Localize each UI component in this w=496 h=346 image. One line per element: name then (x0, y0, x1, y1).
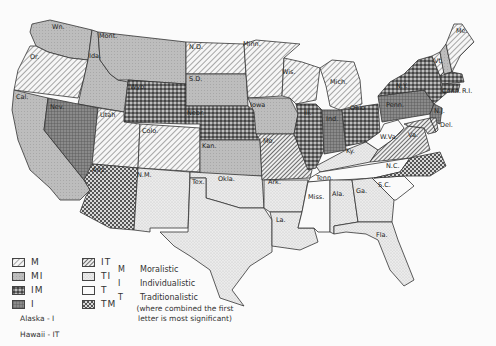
label-vt: Vt. (434, 57, 443, 65)
label-ks: Kan. (202, 142, 216, 150)
label-ms: Miss. (308, 193, 324, 201)
swatch-i (12, 300, 25, 309)
swatch-im (12, 286, 25, 295)
label-nm: N.M. (137, 171, 152, 179)
key-meaning: Individualistic (140, 279, 195, 288)
key-meaning: Traditionalistic (140, 293, 198, 302)
label-ky: Ky. (346, 147, 355, 155)
label-va: Va. (408, 131, 418, 139)
legend-code: T (101, 285, 108, 295)
swatch-m (12, 258, 25, 267)
alaska-note: Alaska - I (20, 314, 54, 323)
label-co: Colo. (142, 127, 158, 135)
legend-code: IM (31, 285, 43, 295)
label-or: Or. (30, 53, 39, 61)
label-nv: Nev. (50, 103, 64, 111)
label-nd: N.D. (189, 43, 203, 51)
legend-code: TI (101, 271, 111, 281)
hawaii-note: Hawaii - IT (20, 330, 59, 339)
label-me: Me. (456, 27, 468, 35)
legend-code: I (31, 299, 35, 309)
label-tn: Tenn. (315, 174, 333, 182)
label-wy: Wyo. (130, 83, 146, 91)
label-id: Ida. (89, 52, 101, 60)
legend-item-mi: MI (12, 270, 82, 282)
label-ga: Ga. (356, 187, 367, 195)
key-letter: T (118, 293, 140, 302)
swatch-t (82, 286, 95, 295)
state-wi (282, 58, 320, 104)
key-row-m: M Moralistic (118, 262, 318, 276)
legend-note-line2: letter is most significant) (110, 314, 260, 324)
swatch-mi (12, 272, 25, 281)
label-il: Ill. (304, 109, 312, 117)
label-ut: Utah (100, 111, 115, 119)
label-mn: Minn. (243, 40, 261, 48)
label-ar: Ark. (268, 178, 281, 186)
legend-item-i: I (12, 298, 82, 310)
state-az (80, 164, 138, 230)
label-nc: N.C. (386, 162, 400, 170)
label-wi: Wis. (282, 68, 296, 76)
label-az: Ariz. (92, 166, 106, 174)
label-mt: Mont. (99, 32, 117, 40)
label-la: La. (276, 216, 286, 224)
swatch-tm (82, 300, 95, 309)
key-letter: I (118, 279, 140, 288)
swatch-ti (82, 272, 95, 281)
legend-item-im: IM (12, 284, 82, 296)
label-nj: N.J. (434, 107, 445, 115)
label-wa: Wn. (52, 23, 65, 31)
swatch-it (82, 258, 95, 267)
label-ct: Conn. (442, 87, 461, 95)
label-sc: S.C. (378, 181, 391, 189)
key-row-i: I Individualistic (118, 276, 318, 290)
legend-code: MI (31, 271, 43, 281)
label-tx: Tex. (191, 178, 205, 186)
label-al: Ala. (332, 190, 344, 198)
legend-key: M Moralistic I Individualistic T Traditi… (118, 262, 318, 324)
label-ny: N.Y. (396, 82, 408, 90)
label-mo: Mo. (263, 137, 275, 145)
label-wv: W.Va. (380, 133, 398, 141)
key-meaning: Moralistic (140, 265, 178, 274)
label-ia: Iowa (250, 101, 265, 109)
label-mi: Mich. (330, 78, 347, 86)
legend: M IT MI TI IM T I TM (8, 248, 488, 346)
key-row-t: T Traditionalistic (118, 290, 318, 304)
legend-item-m: M (12, 256, 82, 268)
label-ca: Cal. (16, 93, 28, 101)
label-in: Ind. (326, 115, 338, 123)
label-sd: S.D. (189, 75, 202, 83)
label-oh: Ohio (350, 104, 365, 112)
label-ri: R.I. (462, 87, 472, 95)
key-letter: M (118, 265, 140, 274)
legend-code: IT (101, 257, 111, 267)
label-ne: Nebr. (187, 109, 204, 117)
label-fl: Fla. (376, 231, 388, 239)
label-pa: Penn. (386, 101, 404, 109)
label-de: Del. (440, 121, 453, 129)
legend-note-line1: (where combined the first (110, 304, 260, 314)
label-ok: Okla. (218, 175, 235, 183)
legend-code: M (31, 257, 40, 267)
